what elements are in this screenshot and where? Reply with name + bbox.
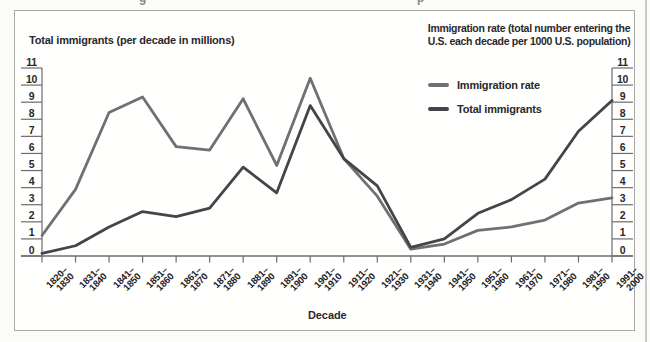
x-tick-label: 1901–1910 [312, 265, 343, 296]
x-tick-label: 1941–1950 [446, 265, 477, 296]
x-tick-label: 1851–1860 [145, 265, 176, 296]
x-tick-label: 1831–1840 [78, 265, 109, 296]
x-tick-label: 1921–1930 [379, 265, 410, 296]
x-tick-label: 1911–1920 [346, 265, 376, 295]
scanned-page: g p .yt{font:700 10.5px "Liberation Sans… [0, 0, 650, 342]
x-tick-label: 1841–1850 [111, 265, 142, 296]
x-tick-label: 1871–1880 [212, 265, 243, 296]
x-tick-label: 1891–1900 [279, 265, 310, 296]
x-axis-title: Decade [308, 309, 347, 321]
x-tick-label: 1991–2000 [614, 265, 645, 296]
x-tick-label: 1951–1960 [480, 265, 511, 296]
cropped-caption-fragment: g [139, 0, 153, 6]
x-tick-label: 1981–1990 [581, 265, 612, 296]
x-tick-label: 1820–1830 [44, 265, 75, 296]
x-tick-label: 1961–1970 [513, 265, 544, 296]
x-axis-labels: 1820–18301831–18401841–18501851–18601861… [0, 0, 650, 342]
x-tick-label: 1881–1890 [245, 265, 276, 296]
x-tick-label: 1931–1940 [413, 265, 444, 296]
cropped-caption-fragment: p [417, 0, 433, 6]
x-tick-label: 1971–1980 [547, 265, 578, 296]
x-tick-label: 1861–1870 [178, 265, 209, 296]
